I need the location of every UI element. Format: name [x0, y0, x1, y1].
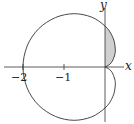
- y-axis-label: y: [99, 0, 107, 12]
- cardioid-diagram: −2 −1 x y: [0, 0, 134, 124]
- x-tick-label-minus-2: −2: [11, 71, 27, 84]
- x-axis-label: x: [125, 59, 132, 73]
- x-tick-label-minus-1: −1: [55, 71, 71, 84]
